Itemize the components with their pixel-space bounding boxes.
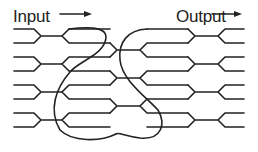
arrow-right-icon (212, 11, 242, 17)
stage-2 (62, 29, 110, 127)
stage-4 (140, 29, 188, 127)
output-stage (188, 29, 244, 127)
arrow-right-icon (60, 11, 92, 17)
stage-3 (110, 43, 140, 113)
switch-network-diagram (0, 0, 258, 152)
